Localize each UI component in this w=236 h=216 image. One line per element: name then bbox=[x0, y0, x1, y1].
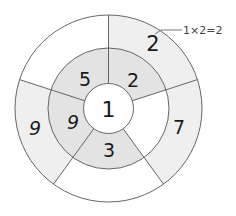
center-value: 1 bbox=[102, 97, 116, 122]
outer-segment-value-left: 9 bbox=[29, 117, 41, 139]
outer-segment-value-right: 7 bbox=[173, 116, 185, 138]
middle-segment-value-bottom: 3 bbox=[103, 139, 115, 161]
middle-segment-value-top-left: 5 bbox=[79, 68, 91, 90]
annotation-text: 1×2=2 bbox=[183, 24, 222, 37]
middle-segment-value-top-right: 2 bbox=[127, 69, 139, 91]
middle-segment-value-left: 9 bbox=[67, 111, 79, 133]
number-wheel-diagram: 1 2395279 1×2=2 bbox=[0, 0, 236, 216]
outer-segment-value-top-right: 2 bbox=[146, 32, 159, 56]
